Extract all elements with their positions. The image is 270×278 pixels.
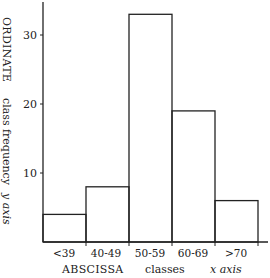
x-cat-40-49: 40-49 — [91, 247, 121, 259]
x-cat-gt70: >70 — [225, 247, 247, 259]
x-cat-60-69: 60-69 — [178, 247, 208, 259]
y-ticks: 10 20 30 — [23, 29, 43, 180]
y-title-class-frequency: class frequency — [0, 98, 13, 186]
bar-gt70 — [215, 201, 258, 242]
x-title-classes: classes — [145, 263, 185, 276]
x-title-x-axis: x axis — [210, 263, 242, 276]
bar-60-69 — [172, 111, 215, 242]
x-cat-lt39: <39 — [53, 247, 75, 259]
bar-lt39 — [43, 214, 86, 242]
y-tick-30: 30 — [23, 29, 37, 42]
x-title-abscissa: ABSCISSA — [61, 263, 124, 276]
y-title-y-axis: y axis — [0, 192, 13, 225]
y-title-ordinate: ORDINATE — [0, 17, 13, 82]
bar-50-59 — [129, 14, 172, 242]
x-cat-50-59: 50-59 — [135, 247, 165, 259]
y-tick-20: 20 — [23, 98, 37, 111]
y-tick-10: 10 — [23, 167, 37, 180]
histogram-chart: 10 20 30 <39 40-49 50-59 60-69 >70 ABSCI… — [0, 0, 270, 278]
histogram-bars — [43, 14, 258, 242]
bar-40-49 — [86, 187, 129, 242]
